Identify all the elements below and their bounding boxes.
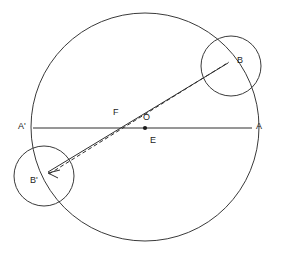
geometry-diagram: A' A B B' F O E [0, 0, 281, 257]
label-a: A [256, 121, 262, 131]
label-b-prime: B' [30, 175, 38, 185]
small-circle-b [201, 36, 261, 96]
label-a-prime: A' [18, 121, 26, 131]
small-circle-b-prime [14, 146, 74, 206]
label-e: E [150, 135, 156, 145]
geometry-canvas: A' A B B' F O E [0, 0, 281, 257]
solid-chord-b-prime-to-b [48, 63, 228, 172]
label-f: F [113, 107, 119, 117]
label-o: O [143, 112, 150, 122]
label-b: B [237, 55, 243, 65]
chord-junction-b-prime-lower [48, 173, 58, 178]
center-point-o [143, 126, 147, 130]
